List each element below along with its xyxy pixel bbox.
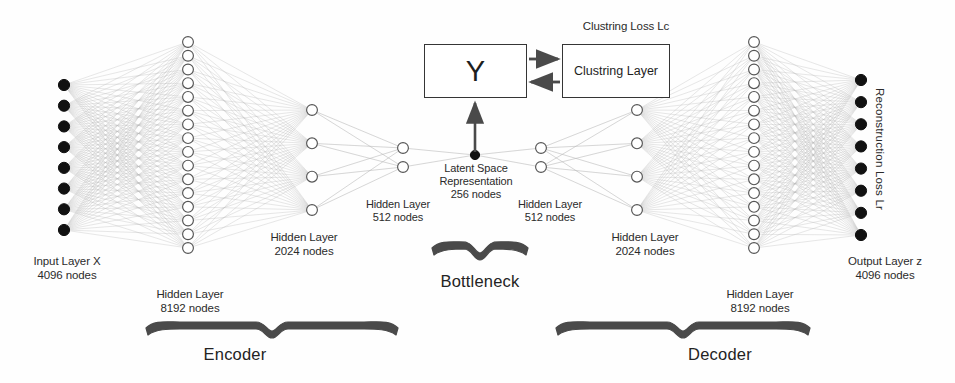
encoder-hidden-512-label: Hidden Layer 512 nodes <box>348 198 448 224</box>
encoder-section-label: Encoder <box>155 345 315 364</box>
y-output-box: Y <box>424 44 527 98</box>
decoder-hidden-8192-label: Hidden Layer 8192 nodes <box>700 288 820 315</box>
reconstruction-loss-label: Reconstruction Loss Lr <box>874 88 886 210</box>
decoder-hidden-2024-label: Hidden Layer 2024 nodes <box>586 231 704 258</box>
y-box-label: Y <box>425 45 526 97</box>
input-layer-label: Input Layer X 4096 nodes <box>8 255 126 282</box>
autoencoder-architecture-diagram: Y Clustring Layer Clustring Loss Lc Reco… <box>0 0 955 383</box>
clustering-layer-box: Clustring Layer <box>562 44 670 98</box>
encoder-hidden-8192-label: Hidden Layer 8192 nodes <box>130 288 250 315</box>
clustering-loss-label: Clustring Loss Lc <box>556 20 696 34</box>
output-layer-label: Output Layer z 4096 nodes <box>826 255 944 282</box>
decoder-section-label: Decoder <box>640 345 800 364</box>
decoder-hidden-512-label: Hidden Layer 512 nodes <box>500 198 600 224</box>
clustering-layer-label: Clustring Layer <box>563 45 669 97</box>
bottleneck-section-label: Bottleneck <box>420 272 540 291</box>
encoder-hidden-2024-label: Hidden Layer 2024 nodes <box>245 231 363 258</box>
latent-space-label: Latent Space Representation 256 nodes <box>415 162 537 201</box>
